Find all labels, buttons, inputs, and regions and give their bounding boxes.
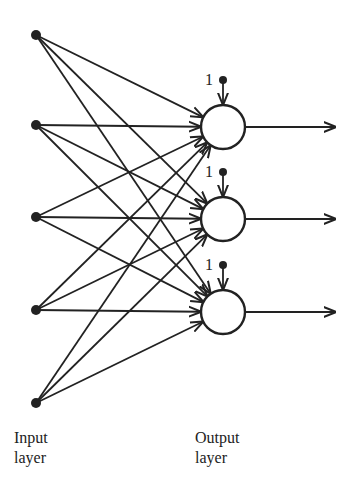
network-graph: 111 — [0, 0, 352, 491]
output-neuron — [201, 197, 245, 241]
input-node — [31, 120, 41, 130]
input-nodes — [31, 30, 41, 408]
connection-arrow — [36, 35, 202, 117]
bias-label: 1 — [205, 163, 213, 180]
neural-network-diagram: 111 Input layer Output layer — [0, 0, 352, 491]
input-node — [31, 305, 41, 315]
connection-arrow — [36, 229, 202, 310]
connections — [36, 35, 210, 403]
output-neurons — [201, 105, 335, 334]
bias-label: 1 — [205, 71, 213, 88]
connection-arrow — [36, 125, 207, 296]
connection-arrow — [36, 310, 200, 312]
connection-arrow — [36, 125, 202, 209]
bias-node — [219, 76, 227, 84]
output-neuron — [201, 290, 245, 334]
connection-arrow — [36, 217, 200, 219]
connection-arrow — [36, 322, 202, 403]
bias-node — [219, 261, 227, 269]
input-node — [31, 398, 41, 408]
output-layer-label: Output layer — [195, 428, 239, 468]
bias-node — [219, 168, 227, 176]
output-neuron — [201, 105, 245, 149]
connection-arrow — [36, 146, 210, 403]
input-layer-label: Input layer — [14, 428, 48, 468]
connection-arrow — [36, 35, 207, 203]
input-node — [31, 30, 41, 40]
bias-inputs: 111 — [205, 71, 227, 289]
input-node — [31, 212, 41, 222]
connection-arrow — [36, 125, 200, 127]
bias-label: 1 — [205, 256, 213, 273]
